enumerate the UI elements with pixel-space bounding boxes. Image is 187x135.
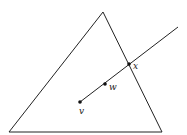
- point-x: [127, 62, 131, 66]
- label-v: v: [79, 106, 84, 116]
- diagram-canvas: v w x: [0, 0, 187, 135]
- label-x: x: [133, 61, 138, 71]
- triangle: [9, 12, 162, 132]
- point-w: [103, 82, 107, 86]
- point-v: [78, 100, 82, 104]
- label-w: w: [109, 82, 117, 92]
